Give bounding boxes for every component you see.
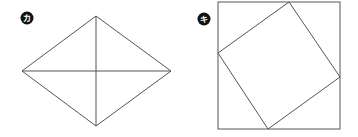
inner-rotated-square bbox=[218, 2, 340, 129]
figure-ki: キ bbox=[198, 2, 341, 129]
label-ka: カ bbox=[23, 14, 31, 23]
figure-ka: カ bbox=[21, 12, 172, 127]
figure-canvas: カ キ bbox=[0, 0, 358, 137]
outer-square bbox=[218, 2, 340, 129]
label-ki: キ bbox=[200, 15, 208, 24]
